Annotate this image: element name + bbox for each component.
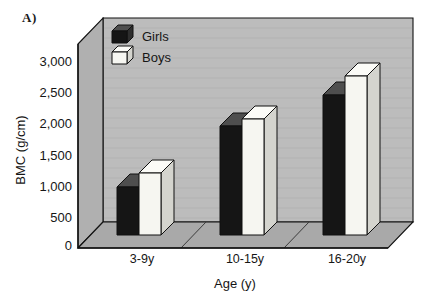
x-axis-category-labels: 3-9y 10-15y 16-20y xyxy=(130,252,367,266)
chart-left-wall xyxy=(78,18,103,248)
bar-front-face xyxy=(345,76,367,235)
bar-side-face xyxy=(367,63,380,235)
bar-side-face xyxy=(264,106,277,235)
bar-group-10-15y xyxy=(220,106,277,235)
y-tick-500: 500 xyxy=(50,210,72,225)
bar-front-face xyxy=(220,126,242,235)
dark-cube-icon xyxy=(112,25,133,43)
bar-front-face xyxy=(139,173,161,235)
legend-label-boys: Boys xyxy=(142,50,171,65)
y-tick-1000: 1,000 xyxy=(39,179,72,194)
y-tick-0: 0 xyxy=(65,238,72,253)
y-axis-tick-labels: 0 500 1,000 1,500 2,000 2,500 3,000 xyxy=(39,54,72,253)
bar-front-face xyxy=(117,187,139,235)
bar-group-16-20y xyxy=(323,63,380,235)
y-axis-title: BMC (g/cm) xyxy=(13,115,28,184)
y-tick-1500: 1,500 xyxy=(39,148,72,163)
x-cat-1: 10-15y xyxy=(226,252,265,266)
bar-boys-16-20y xyxy=(345,63,380,235)
bar-front-face xyxy=(242,119,264,235)
x-axis-title: Age (y) xyxy=(214,276,256,291)
x-cat-2: 16-20y xyxy=(328,252,367,266)
bmc-by-age-3d-bar-chart: 0 500 1,000 1,500 2,000 2,500 3,000 BMC … xyxy=(0,0,421,304)
x-cat-0: 3-9y xyxy=(130,252,155,266)
bar-front-face xyxy=(323,95,345,235)
y-tick-2000: 2,000 xyxy=(39,116,72,131)
bar-boys-10-15y xyxy=(242,106,277,235)
y-tick-3000: 3,000 xyxy=(39,54,72,69)
legend-label-girls: Girls xyxy=(142,29,169,44)
chart-figure: A) xyxy=(0,0,421,304)
y-tick-2500: 2,500 xyxy=(39,85,72,100)
bar-boys-3-9y xyxy=(139,160,174,235)
light-cube-icon xyxy=(112,46,133,64)
